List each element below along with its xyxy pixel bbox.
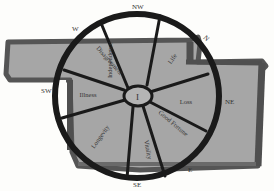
direction-w: W [72, 25, 79, 33]
direction-ne: NE [225, 98, 234, 106]
bagua-diagram: I Independence Life Loss Good Fortune Vi… [0, 0, 274, 191]
hub-label: I [136, 92, 139, 102]
direction-nw: NW [132, 3, 144, 11]
direction-sw: SW [41, 87, 52, 95]
sector-label-loss: Loss [180, 98, 193, 105]
direction-e: E [188, 166, 192, 174]
sector-label-illness: Illness [80, 91, 97, 98]
direction-se: SE [133, 181, 141, 189]
